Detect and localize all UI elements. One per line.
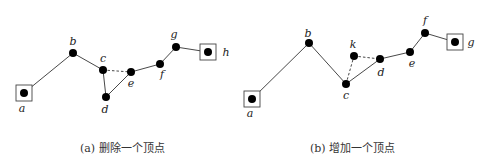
vertex-label-c: c [100,52,106,65]
vertex-label-d: d [377,66,384,79]
vertex-label-c: c [343,89,349,102]
edge-c-d [103,70,106,97]
vertex-b [305,39,313,47]
vertex-label-k: k [350,38,357,51]
edge-d-e [380,52,410,59]
edge-b-c [73,53,103,70]
vertex-c [99,66,107,74]
panel-add-vertex: abckdefg [244,14,475,120]
vertex-label-g: g [170,28,177,41]
vertex-a [248,95,256,103]
vertex-k [350,52,358,60]
vertex-label-f: f [422,14,429,27]
vertex-label-d: d [101,103,108,116]
vertex-label-g: g [467,36,474,49]
vertex-label-a: a [19,102,26,115]
vertex-f [156,60,164,68]
edge-c-e [103,70,131,72]
vertex-label-b: b [304,27,311,40]
edge-a-b [252,43,309,99]
vertex-label-a: a [247,107,254,120]
edge-c-d [346,59,380,84]
vertex-a [20,89,28,97]
edge-b-c [309,43,346,84]
caption-add-vertex: (b) 增加一个顶点 [310,139,395,155]
vertex-b [69,49,77,57]
graph-diagram: abcdefgh abckdefg [0,0,485,159]
vertex-e [127,68,135,76]
vertex-label-f: f [159,68,166,81]
vertex-f [421,29,429,37]
vertex-label-b: b [69,35,76,48]
vertex-c [342,80,350,88]
vertex-label-e: e [409,57,416,70]
panel-delete-vertex: abcdefgh [16,28,230,116]
vertex-label-h: h [222,46,229,59]
vertex-h [204,48,212,56]
edge-e-f [131,64,160,72]
vertex-d [376,55,384,63]
edge-c-k [346,56,354,84]
vertex-d [102,93,110,101]
caption-delete-vertex: (a) 删除一个顶点 [80,139,165,155]
vertex-g [172,43,180,51]
vertex-e [406,48,414,56]
vertex-g [451,38,459,46]
vertex-label-e: e [128,77,135,90]
